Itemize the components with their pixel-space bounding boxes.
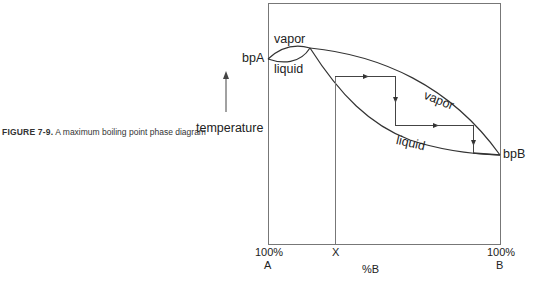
- x-axis-right-component: B: [496, 259, 503, 271]
- x-axis-right-percent: 100%: [487, 246, 515, 258]
- bpB-label: bpB: [503, 147, 525, 161]
- x-axis-title: %B: [362, 263, 379, 275]
- bpA-label: bpA: [242, 51, 264, 65]
- x-axis-marker-x: X: [332, 246, 339, 258]
- x-axis-left-component: A: [264, 259, 271, 271]
- liquid-label-left: liquid: [274, 62, 303, 76]
- temperature-arrow-icon: [223, 71, 229, 112]
- vapor-curve-left: [268, 46, 310, 59]
- y-axis-label: temperature: [196, 121, 263, 135]
- vapor-label-left: vapor: [274, 32, 305, 46]
- x-axis-left-percent: 100%: [255, 246, 283, 258]
- liquid-curve-left: [268, 48, 310, 62]
